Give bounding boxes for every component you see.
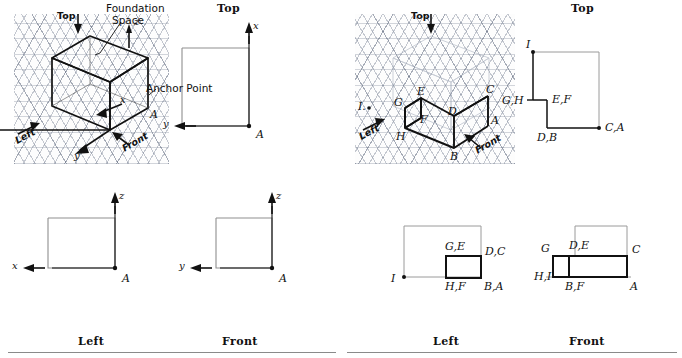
iso-axis-x-left: x (120, 94, 126, 105)
left-view-label-i: I (391, 272, 395, 285)
top-view-label-gh: G,H (502, 94, 523, 107)
iso-vertex-d: D (448, 105, 457, 118)
front-view-caption-left: Front (222, 335, 258, 348)
left-panel-linework (0, 0, 341, 358)
top-view-anchor-left: A (256, 128, 264, 141)
object-iso-solid (405, 96, 488, 148)
iso-axis-y-left: y (74, 150, 80, 161)
front-view-anchor-left: A (279, 272, 287, 285)
iso-top-arrow-label-left: Top (57, 10, 76, 21)
front-view-axis-z-left: z (276, 190, 281, 201)
left-view-axis-z-left: z (119, 190, 124, 201)
iso-axis-z-left: z (134, 16, 139, 27)
left-view-caption-right: Left (433, 335, 459, 348)
left-view-label-ge: G,E (445, 240, 465, 253)
top-view-axis-x-left: x (253, 20, 259, 31)
top-view-caption-right: Top (571, 2, 594, 15)
callout-foundation-line1: Foundation (106, 2, 165, 14)
top-view-linework-right (527, 50, 601, 130)
left-view-linework-left (23, 192, 119, 272)
front-view-label-de: D,E (569, 239, 589, 252)
top-view-label-db: D,B (537, 131, 557, 144)
top-view-axis-y-left: y (163, 118, 169, 129)
left-view-anchor-left: A (122, 272, 130, 285)
iso-vertex-c: C (486, 83, 494, 96)
front-view-label-a: A (630, 280, 638, 293)
iso-vertex-g: G (394, 96, 403, 109)
left-view-axis-x-left: x (12, 260, 18, 271)
panel-bottom-rule-right (347, 352, 677, 353)
left-view-caption-left: Left (78, 335, 104, 348)
iso-vertex-e: E (417, 85, 425, 98)
iso-anchor-label-left: A (150, 108, 158, 121)
callout-anchor-point: Anchor Point (146, 82, 212, 94)
top-view-label-ef: E,F (552, 93, 571, 106)
iso-vertex-a: A (491, 114, 499, 127)
front-view-label-c: C (632, 243, 640, 256)
top-view-linework-left (174, 22, 253, 130)
point-i-dot-iso (367, 106, 371, 110)
panel-bottom-rule-left (8, 352, 336, 353)
iso-top-arrow-label-right: Top (411, 10, 430, 21)
front-view-linework-left (190, 192, 276, 272)
front-view-label-hi: H,I (534, 270, 551, 283)
panel-solved-object: Top Top Left Front I. G E D C F A H B I … (341, 0, 682, 358)
front-view-caption-right: Front (569, 335, 605, 348)
iso-vertex-f: F (420, 113, 428, 126)
iso-vertex-h: H (396, 130, 406, 143)
foundation-ghost-iso (393, 36, 489, 130)
left-view-label-ba: B,A (484, 280, 504, 293)
left-view-label-hf: H,F (445, 280, 466, 293)
iso-point-i-right: I. (358, 100, 366, 113)
top-view-caption-left: Top (217, 2, 240, 15)
front-view-axis-y-left: y (179, 260, 185, 271)
left-view-label-dc: D,C (485, 245, 505, 258)
foundation-box-hidden-edges (52, 36, 148, 108)
panel-foundation-space: Top Foundation Space Anchor Point Top Le… (0, 0, 341, 358)
right-panel-linework (341, 0, 682, 358)
top-view-label-i: I (526, 38, 530, 51)
front-view-label-g: G (541, 242, 550, 255)
iso-vertex-b: B (450, 150, 458, 163)
top-view-label-ca: C,A (605, 121, 624, 134)
front-view-label-bf: B,F (565, 280, 584, 293)
left-view-linework-right (402, 226, 481, 279)
